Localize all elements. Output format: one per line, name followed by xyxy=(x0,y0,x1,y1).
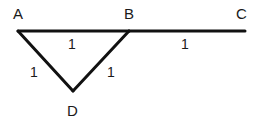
edge-b-d xyxy=(73,31,129,91)
graph-diagram: A B C D 1 1 1 1 xyxy=(0,0,258,125)
edge-weight-b-c: 1 xyxy=(181,36,189,52)
edge-weight-b-d: 1 xyxy=(107,64,115,80)
edge-weight-a-d: 1 xyxy=(30,64,38,80)
node-label-d: D xyxy=(67,102,78,119)
node-label-a: A xyxy=(13,5,23,22)
edge-weight-a-b: 1 xyxy=(68,36,76,52)
node-label-b: B xyxy=(124,5,134,22)
node-label-c: C xyxy=(236,5,247,22)
edge-a-d xyxy=(18,31,73,91)
